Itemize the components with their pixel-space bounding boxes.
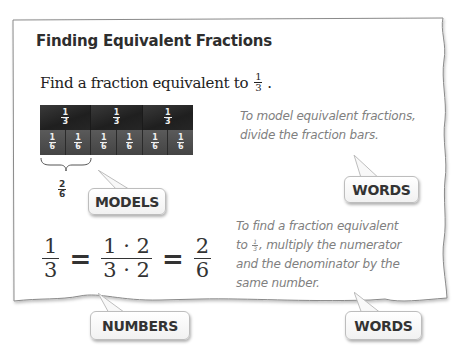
mid-fraction: 1 · 23 · 2 bbox=[101, 235, 152, 282]
sixth-cell: 16 bbox=[91, 130, 117, 155]
curly-brace-icon bbox=[40, 157, 92, 177]
lhs-fraction: 13 bbox=[42, 235, 59, 282]
inline-fraction: 13 bbox=[252, 239, 258, 252]
prompt: Find a fraction equivalent to 1 3 . bbox=[40, 72, 272, 93]
sixth-cell: 16 bbox=[143, 130, 169, 155]
sixth-cell: 16 bbox=[40, 130, 66, 155]
numbers-label: NUMBERS bbox=[90, 311, 190, 340]
equals-sign: = bbox=[162, 244, 184, 274]
sixth-cell: 16 bbox=[66, 130, 92, 155]
rhs-fraction: 26 bbox=[194, 235, 211, 282]
sixth-cell: 16 bbox=[168, 130, 193, 155]
models-label: MODELS bbox=[88, 188, 166, 215]
words-label-1: WORDS bbox=[344, 176, 419, 203]
brace-fraction: 26 bbox=[58, 180, 66, 199]
prompt-fraction: 1 3 bbox=[254, 72, 262, 93]
sixths-bar: 16 16 16 16 16 16 bbox=[40, 130, 193, 155]
third-cell: 13 bbox=[143, 105, 193, 130]
fraction-bars-model: 13 13 13 16 16 16 16 16 16 bbox=[40, 105, 193, 155]
words-label-2: WORDS bbox=[345, 311, 422, 340]
prompt-period: . bbox=[267, 74, 271, 92]
words-description-1: To model equivalent fractions, divide th… bbox=[240, 107, 416, 145]
prompt-text: Find a fraction equivalent to bbox=[40, 74, 248, 92]
thirds-bar: 13 13 13 bbox=[40, 105, 193, 130]
equation: 13 = 1 · 23 · 2 = 26 bbox=[42, 235, 211, 282]
sixth-cell: 16 bbox=[117, 130, 143, 155]
third-cell: 13 bbox=[40, 105, 91, 130]
words-description-2: To find a fraction equivalent to 13, mul… bbox=[236, 217, 401, 293]
third-cell: 13 bbox=[91, 105, 142, 130]
equals-sign: = bbox=[69, 244, 91, 274]
section-title: Finding Equivalent Fractions bbox=[36, 32, 272, 50]
